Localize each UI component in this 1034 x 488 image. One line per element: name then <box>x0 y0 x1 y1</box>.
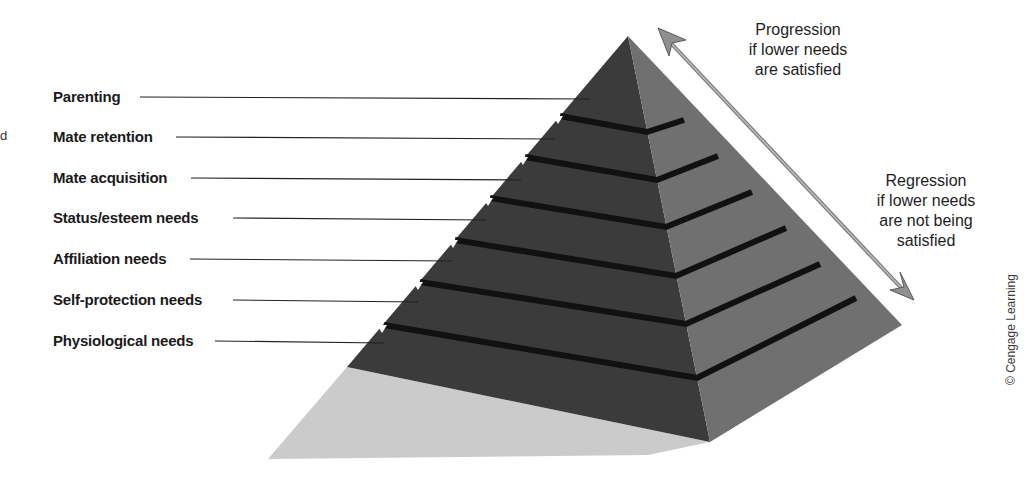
progression-note-line: are satisfied <box>738 60 858 80</box>
progression-note: Progression if lower needs are satisfied <box>738 20 858 80</box>
regression-note-line: if lower needs <box>866 191 986 211</box>
level-label-status-esteem: Status/esteem needs <box>53 209 198 227</box>
stray-text-fragment: d <box>0 128 7 143</box>
regression-note-line: satisfied <box>866 231 986 251</box>
progression-note-line: Progression <box>738 20 858 40</box>
level-label-mate-acquisition: Mate acquisition <box>53 169 167 187</box>
regression-note: Regression if lower needs are not being … <box>866 171 986 251</box>
progression-note-line: if lower needs <box>738 40 858 60</box>
level-label-physiological: Physiological needs <box>53 332 193 350</box>
level-label-mate-retention: Mate retention <box>53 128 153 146</box>
copyright-notice: © Cengage Learning <box>1004 274 1018 385</box>
level-label-parenting: Parenting <box>53 88 120 106</box>
regression-note-line: Regression <box>866 171 986 191</box>
level-label-self-protection: Self-protection needs <box>53 291 202 309</box>
regression-note-line: are not being <box>866 211 986 231</box>
level-label-affiliation: Affiliation needs <box>53 250 166 268</box>
